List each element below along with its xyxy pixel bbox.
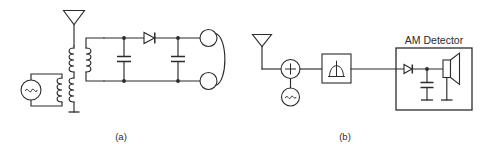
antenna-icon	[64, 11, 85, 47]
ac-source-icon	[21, 80, 41, 100]
transformer-lower-secondary-coil	[69, 78, 74, 102]
circuit-diagram-svg: (a)	[0, 0, 480, 153]
capacitor-filter-icon	[421, 69, 434, 100]
transformer-upper-secondary-coil	[86, 48, 91, 72]
capacitor-filter-icon	[171, 36, 185, 83]
mixer-icon	[281, 60, 300, 79]
secondary-top-lead	[86, 38, 104, 48]
panel-b: AM Detector	[253, 34, 473, 142]
bandpass-filter-icon	[322, 54, 351, 83]
capacitor-tuning-icon	[117, 36, 131, 83]
am-detector-title: AM Detector	[405, 34, 464, 46]
secondary-bottom-lead	[86, 72, 104, 81]
panel-a: (a)	[21, 11, 225, 143]
diode-detector-icon	[144, 33, 155, 44]
antenna-icon	[253, 35, 272, 70]
local-oscillator-icon	[282, 88, 300, 106]
caption-a: (a)	[115, 131, 127, 142]
figure-container: (a)	[0, 0, 480, 153]
diode-detector-icon	[404, 65, 412, 74]
transformer-upper-primary-coil	[69, 48, 74, 72]
speaker-icon	[443, 53, 460, 100]
transformer-lower-primary-coil	[57, 78, 62, 102]
caption-b: (b)	[339, 131, 351, 142]
headphones-icon	[200, 30, 225, 90]
